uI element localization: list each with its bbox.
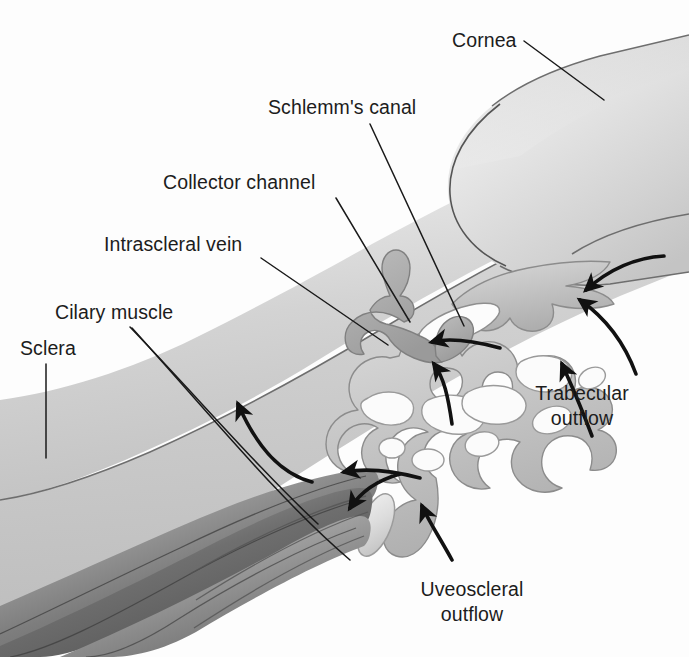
- label-collector-channel: Collector channel: [163, 171, 315, 193]
- label-cornea: Cornea: [452, 29, 517, 51]
- label-trabecular-outflow-line2: outflow: [551, 407, 614, 429]
- label-sclera: Sclera: [20, 337, 76, 359]
- eye-anterior-segment-diagram: Cornea Schlemm's canal Collector channel…: [0, 0, 689, 657]
- anatomical-figure: Cornea Schlemm's canal Collector channel…: [0, 0, 689, 657]
- label-cilary-muscle: Cilary muscle: [55, 301, 173, 323]
- label-intrascleral-vein: Intrascleral vein: [104, 233, 242, 255]
- label-uveoscleral-outflow-line1: Uveoscleral: [421, 578, 524, 600]
- label-trabecular-outflow-line1: Trabecular: [535, 382, 629, 404]
- label-uveoscleral-outflow-line2: outflow: [441, 603, 504, 625]
- label-schlemms-canal: Schlemm's canal: [268, 96, 416, 118]
